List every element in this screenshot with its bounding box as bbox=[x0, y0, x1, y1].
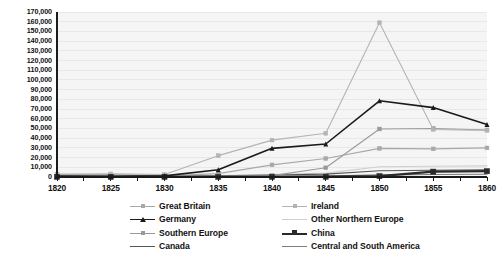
plot-area: 010,00020,00030,00040,00050,00060,00070,… bbox=[0, 0, 497, 192]
legend-item-other-northern-europe[interactable]: Other Northern Europe bbox=[282, 213, 404, 226]
legend-swatch-icon bbox=[130, 214, 155, 225]
legend-label: Great Britain bbox=[159, 201, 210, 211]
legend-swatch-icon bbox=[282, 241, 307, 252]
x-tick-label: 1840 bbox=[263, 183, 281, 193]
legend-item-china[interactable]: China bbox=[282, 226, 335, 239]
x-tick-label: 1860 bbox=[478, 183, 496, 193]
legend-label: Ireland bbox=[311, 201, 339, 211]
x-tick-label: 1830 bbox=[155, 183, 173, 193]
immigration-line-chart: 010,00020,00030,00040,00050,00060,00070,… bbox=[0, 0, 497, 258]
x-tick-label: 1825 bbox=[102, 183, 120, 193]
x-tick-label: 1820 bbox=[48, 183, 66, 193]
x-tick-label: 1845 bbox=[317, 183, 335, 193]
legend-swatch-icon bbox=[130, 227, 155, 238]
legend-item-germany[interactable]: Germany bbox=[130, 213, 196, 226]
x-axis-tick-labels: 182018251830183518401845185018551860 bbox=[0, 0, 497, 192]
legend-swatch-icon bbox=[282, 214, 307, 225]
legend-label: Other Northern Europe bbox=[311, 214, 404, 224]
x-tick-label: 1850 bbox=[370, 183, 388, 193]
legend-item-great-britain[interactable]: Great Britain bbox=[130, 199, 210, 212]
legend-label: Germany bbox=[159, 214, 196, 224]
legend-label: China bbox=[311, 228, 335, 238]
legend-label: Canada bbox=[159, 241, 190, 251]
legend-item-central-and-south-america[interactable]: Central and South America bbox=[282, 240, 420, 253]
legend-label: Southern Europe bbox=[159, 228, 228, 238]
x-tick-label: 1835 bbox=[209, 183, 227, 193]
legend-swatch-icon bbox=[282, 200, 307, 211]
x-tick-label: 1855 bbox=[424, 183, 442, 193]
legend-swatch-icon bbox=[130, 200, 155, 211]
legend-item-canada[interactable]: Canada bbox=[130, 240, 190, 253]
legend-item-southern-europe[interactable]: Southern Europe bbox=[130, 226, 228, 239]
legend-swatch-icon bbox=[282, 227, 307, 238]
legend-label: Central and South America bbox=[311, 241, 420, 251]
chart-legend: Great BritainIrelandGermanyOther Norther… bbox=[130, 199, 430, 255]
legend-swatch-icon bbox=[130, 241, 155, 252]
legend-item-ireland[interactable]: Ireland bbox=[282, 199, 339, 212]
